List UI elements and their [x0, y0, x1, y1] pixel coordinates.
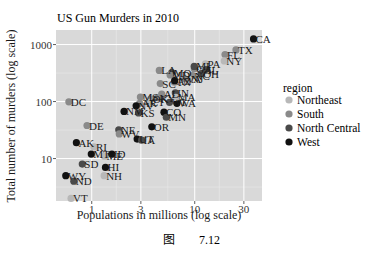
- point-label: VT: [73, 192, 88, 204]
- point-label: ND: [76, 175, 92, 187]
- scatter-chart: US Gun Murders in 2010 CATXFLNYPAILGAMIO…: [0, 0, 369, 256]
- legend-label: West: [297, 136, 321, 148]
- legend-entries: NortheastSouthNorth CentralWest: [285, 94, 360, 148]
- y-tick-label: 1000: [30, 39, 53, 51]
- legend-label: Northeast: [297, 94, 343, 106]
- y-tick-label: 100: [36, 96, 53, 108]
- y-axis-ticks: 101001000: [30, 39, 56, 165]
- point-label: AK: [78, 137, 94, 149]
- y-axis-title: Total number of murders (log scale): [4, 30, 18, 203]
- point-label: NH: [106, 170, 122, 182]
- legend-swatch: [285, 124, 292, 131]
- legend-item: Northeast: [285, 94, 342, 106]
- y-tick-label: 10: [41, 153, 53, 165]
- point-label: SD: [84, 158, 98, 170]
- point-label: WV: [121, 128, 139, 140]
- point-label: DC: [71, 96, 86, 108]
- legend-item: South: [285, 108, 324, 120]
- legend: region NortheastSouthNorth CentralWest: [283, 82, 361, 148]
- point-label: OR: [154, 121, 170, 133]
- legend-label: South: [297, 108, 324, 120]
- point-label: KS: [141, 107, 155, 119]
- point-label: NY: [226, 55, 242, 67]
- legend-item: North Central: [285, 122, 360, 134]
- legend-item: West: [285, 136, 320, 148]
- point-label: MN: [168, 111, 186, 123]
- caption-prefix: 图: [163, 233, 175, 247]
- point-label: AZ: [177, 75, 192, 87]
- chart-title: US Gun Murders in 2010: [57, 11, 179, 25]
- point-label: CA: [256, 33, 271, 45]
- legend-swatch: [285, 138, 292, 145]
- legend-label: North Central: [297, 122, 361, 134]
- legend-swatch: [285, 110, 292, 117]
- point-label: DE: [89, 120, 104, 132]
- legend-swatch: [285, 96, 292, 103]
- point-label: IA: [144, 134, 156, 146]
- x-axis-title: Populations in millions (log scale): [77, 208, 242, 222]
- figure-caption: 图 7.12: [163, 233, 220, 247]
- caption-number: 7.12: [199, 233, 220, 247]
